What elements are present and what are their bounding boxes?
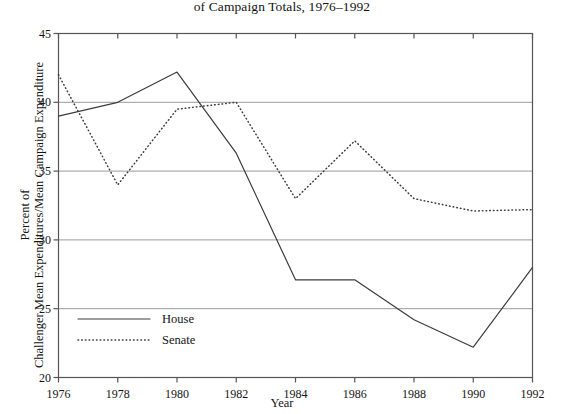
legend-label-house: House	[162, 312, 194, 327]
legend-swatches	[78, 319, 150, 340]
y-axis-title-line-2: Challenger Mean Expenditures/Mean Campai…	[32, 62, 46, 368]
series-line-house	[59, 72, 533, 347]
data-series	[59, 72, 533, 347]
y-axis-title: Percent of Challenger Mean Expenditures/…	[15, 20, 49, 410]
x-axis-title: Year	[0, 396, 564, 411]
y-axis-title-line-1: Percent of	[18, 189, 32, 240]
gridlines	[59, 34, 533, 309]
plot-frame	[59, 34, 533, 378]
legend-label-senate: Senate	[162, 333, 195, 348]
series-line-senate	[59, 75, 533, 211]
plot-area	[0, 0, 564, 414]
axis-frame	[59, 34, 533, 378]
chart-figure: of Campaign Totals, 1976–1992 2025303540…	[0, 0, 564, 414]
